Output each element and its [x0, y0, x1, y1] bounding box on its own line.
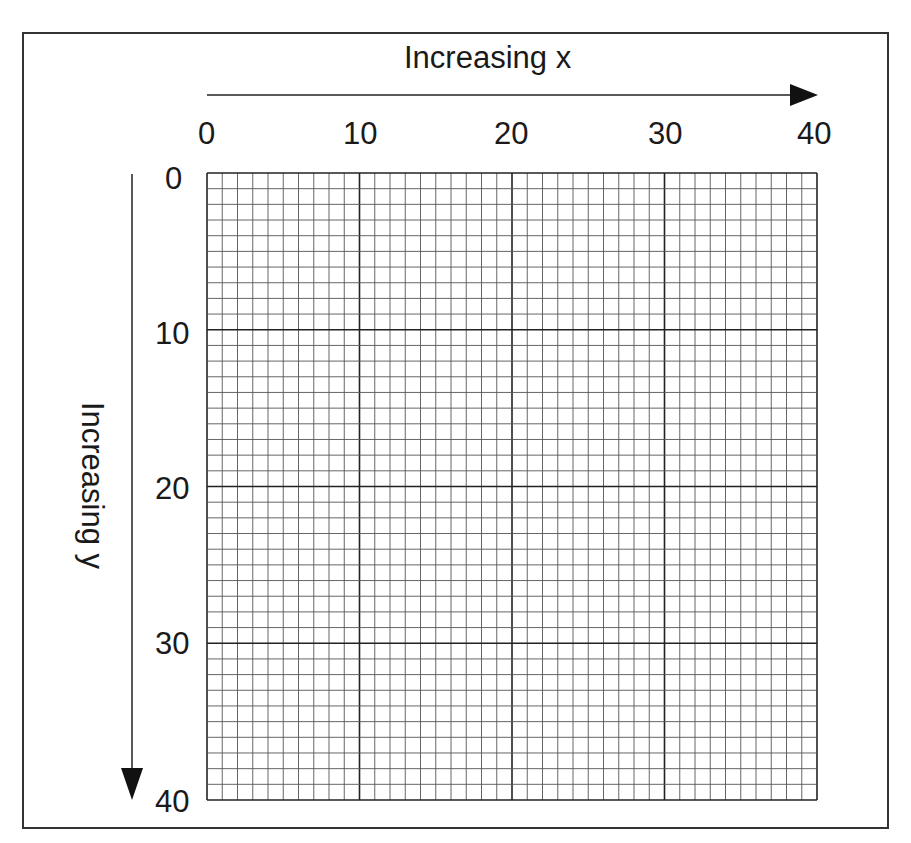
- grid-diagram: [0, 0, 911, 843]
- x-tick-20: 20: [494, 118, 528, 149]
- y-tick-40: 40: [155, 786, 189, 817]
- x-tick-0: 0: [198, 118, 215, 149]
- y-tick-20: 20: [155, 473, 189, 504]
- y-tick-0: 0: [165, 163, 182, 194]
- y-tick-30: 30: [155, 628, 189, 659]
- x-axis-title: Increasing x: [404, 42, 571, 73]
- y-axis-title: Increasing y: [77, 396, 108, 576]
- y-axis-arrowhead-icon: [121, 768, 143, 800]
- x-axis-arrowhead-icon: [790, 84, 818, 106]
- coordinate-grid: [207, 173, 817, 800]
- x-tick-40: 40: [797, 118, 831, 149]
- x-tick-10: 10: [343, 118, 377, 149]
- y-tick-10: 10: [155, 318, 189, 349]
- x-tick-30: 30: [648, 118, 682, 149]
